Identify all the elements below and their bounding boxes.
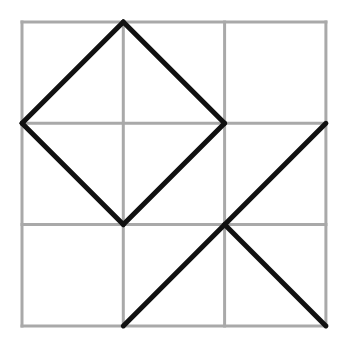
diamond-edge-top-right [123, 22, 224, 123]
diamond-edge-bottom-right [123, 123, 224, 224]
diamond-edge-bottom-left [22, 123, 123, 224]
short-diagonal [225, 225, 326, 326]
diamond-edge-top-left [22, 22, 123, 123]
segments [22, 22, 326, 326]
grid-diagram [0, 0, 343, 355]
